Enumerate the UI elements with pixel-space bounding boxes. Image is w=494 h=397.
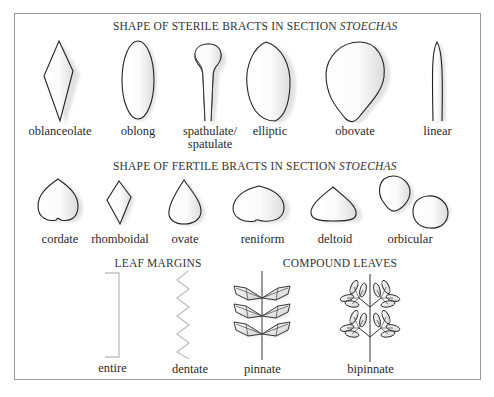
pinnate-leaf bbox=[234, 271, 290, 360]
label-rhomboidal: rhomboidal bbox=[90, 233, 150, 246]
label-dentate: dentate bbox=[165, 363, 215, 376]
label-entire: entire bbox=[90, 362, 135, 375]
deltoid-shape bbox=[311, 187, 362, 223]
label-oblong: oblong bbox=[113, 125, 163, 138]
label-bipinnate: bipinnate bbox=[343, 363, 398, 376]
label-obovate: obovate bbox=[330, 125, 380, 138]
reniform-shape bbox=[233, 186, 290, 224]
dentate-margin bbox=[177, 271, 189, 359]
elliptic-shape bbox=[247, 42, 296, 123]
compound-leaves-heading: COMPOUND LEAVES bbox=[280, 257, 400, 269]
orbicular-shape bbox=[380, 176, 450, 228]
label-orbicular: orbicular bbox=[380, 233, 440, 246]
ovate-shape bbox=[169, 180, 205, 226]
label-ovate: ovate bbox=[165, 233, 205, 246]
obovate-shape bbox=[326, 42, 390, 124]
oblong-shape bbox=[122, 41, 157, 121]
label-reniform: reniform bbox=[235, 233, 290, 246]
label-deltoid: deltoid bbox=[310, 233, 360, 246]
bipinnate-leaf bbox=[339, 274, 400, 362]
fertile-bracts-heading: SHAPE OF FERTILE BRACTS IN SECTION STOEC… bbox=[113, 160, 381, 172]
leaf-margins-heading: LEAF MARGINS bbox=[108, 257, 208, 269]
linear-shape bbox=[432, 42, 446, 122]
spathulate-shape bbox=[195, 44, 226, 124]
label-elliptic: elliptic bbox=[245, 125, 295, 138]
label-spatulate: spatulate bbox=[180, 138, 240, 151]
sterile-bracts-heading: SHAPE OF STERILE BRACTS IN SECTION STOEC… bbox=[113, 20, 381, 32]
oblanceolate-shape bbox=[44, 41, 80, 124]
label-linear: linear bbox=[415, 125, 460, 138]
entire-margin bbox=[105, 273, 119, 357]
botanical-shapes-illustration bbox=[0, 0, 494, 397]
rhomboidal-shape bbox=[107, 181, 135, 226]
label-oblanceolate: oblanceolate bbox=[20, 125, 100, 138]
label-pinnate: pinnate bbox=[240, 363, 285, 376]
cordate-shape bbox=[38, 179, 83, 222]
label-cordate: cordate bbox=[35, 233, 85, 246]
